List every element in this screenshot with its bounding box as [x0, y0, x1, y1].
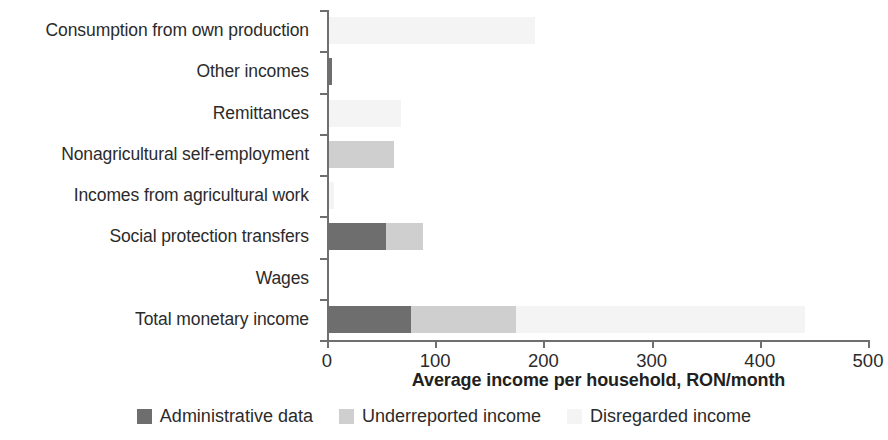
legend-item[interactable]: Disregarded income: [567, 406, 751, 427]
bar-row: [329, 216, 870, 257]
chart-page: Consumption from own productionOther inc…: [0, 0, 888, 440]
legend-swatch-icon: [339, 409, 354, 424]
chart-legend: Administrative dataUnderreported incomeD…: [0, 406, 888, 427]
bar-segment: [516, 306, 805, 333]
bar-row: [329, 299, 870, 340]
x-axis-tick: [868, 340, 870, 348]
y-axis-tick: [320, 258, 328, 260]
x-axis-line: 0100200300400500: [327, 340, 870, 342]
x-axis-tick: [435, 340, 437, 348]
legend-item[interactable]: Administrative data: [137, 406, 313, 427]
x-axis-tick-label: 100: [420, 350, 451, 372]
bar-segment: [329, 58, 332, 85]
bar-chart: Consumption from own productionOther inc…: [0, 0, 888, 440]
legend-item[interactable]: Underreported income: [339, 406, 541, 427]
y-axis-tick-label: Nonagricultural self-employment: [0, 134, 318, 175]
legend-label: Disregarded income: [590, 406, 751, 427]
x-axis-tick-label: 200: [528, 350, 559, 372]
bar-row: [329, 134, 870, 175]
bar-row: [329, 93, 870, 134]
bar-segment: [329, 306, 411, 333]
bar-segment: [329, 100, 401, 127]
bar-segment: [386, 223, 423, 250]
bar-row: [329, 175, 870, 216]
bar-segment: [329, 17, 535, 44]
x-axis-tick-label: 300: [636, 350, 667, 372]
y-axis-tick-label: Other incomes: [0, 51, 318, 92]
x-axis-tick-label: 0: [322, 350, 332, 372]
y-axis-tick: [320, 134, 328, 136]
x-axis-tick-label: 500: [853, 350, 884, 372]
stacked-bar: [329, 182, 334, 209]
stacked-bar: [329, 17, 535, 44]
bar-row: [329, 10, 870, 51]
legend-swatch-icon: [137, 409, 152, 424]
bar-row: [329, 51, 870, 92]
y-axis-category-labels: Consumption from own productionOther inc…: [0, 10, 318, 340]
bar-segment: [329, 182, 334, 209]
y-axis-tick-label: Social protection transfers: [0, 216, 318, 257]
x-axis-tick-label: 400: [744, 350, 775, 372]
stacked-bar: [329, 223, 423, 250]
x-axis-tick: [760, 340, 762, 348]
stacked-bar: [329, 100, 401, 127]
y-axis-tick: [320, 10, 328, 12]
x-axis-title: Average income per household, RON/month: [327, 370, 870, 391]
stacked-bar: [329, 306, 805, 333]
legend-swatch-icon: [567, 409, 582, 424]
bar-series-container: [329, 10, 870, 340]
bar-segment: [329, 223, 386, 250]
stacked-bar: [329, 141, 394, 168]
y-axis-tick: [320, 216, 328, 218]
stacked-bar: [329, 58, 332, 85]
y-axis-tick: [320, 299, 328, 301]
y-axis-tick-label: Total monetary income: [0, 299, 318, 340]
y-axis-tick: [320, 93, 328, 95]
y-axis-tick-label: Wages: [0, 258, 318, 299]
y-axis-tick-label: Consumption from own production: [0, 10, 318, 51]
y-axis-tick-label: Remittances: [0, 93, 318, 134]
legend-label: Underreported income: [362, 406, 541, 427]
x-axis-tick: [543, 340, 545, 348]
legend-label: Administrative data: [160, 406, 313, 427]
bar-row: [329, 258, 870, 299]
x-axis-tick: [652, 340, 654, 348]
x-axis-tick: [327, 340, 329, 348]
bar-segment: [411, 306, 516, 333]
y-axis-tick: [320, 51, 328, 53]
y-axis-tick-label: Incomes from agricultural work: [0, 175, 318, 216]
y-axis-tick: [320, 175, 328, 177]
bar-segment: [329, 141, 394, 168]
